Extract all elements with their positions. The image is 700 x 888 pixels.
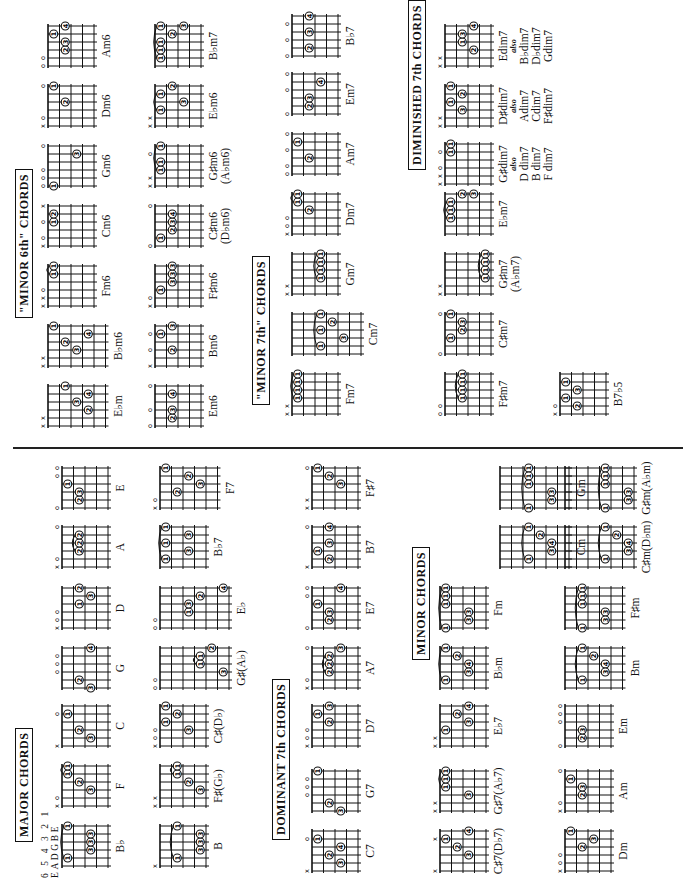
chord-name-label: Bm [629, 634, 641, 702]
open-string-icon: o [39, 64, 47, 68]
fretboard-grid: xoo213 [302, 702, 364, 750]
open-string-icon: o [146, 408, 154, 412]
svg-text:1: 1 [525, 505, 533, 510]
svg-text:1: 1 [317, 327, 325, 332]
svg-text:1: 1 [317, 251, 325, 256]
equivalent-chord: F♯dim7 [542, 72, 554, 140]
fretboard-grid: xxo321 [302, 464, 364, 512]
fretboard-grid: xoo2223 [302, 644, 364, 692]
svg-text:3: 3 [87, 840, 95, 845]
fretboard-grid: ooo321 [302, 767, 364, 815]
chord-name-label: Dm7 [344, 180, 356, 248]
svg-text:1: 1 [162, 465, 170, 470]
open-string-icon: o [303, 646, 311, 650]
svg-text:3: 3 [185, 533, 193, 538]
svg-text:1: 1 [447, 335, 455, 340]
chord-diagram: 11133B♭7 [150, 523, 212, 571]
svg-text:1: 1 [562, 379, 570, 384]
fretboard-grid: xx1324 [430, 702, 492, 750]
muted-string-icon: x [436, 284, 444, 288]
open-string-icon: o [303, 777, 311, 781]
svg-text:3: 3 [625, 490, 633, 495]
svg-text:3: 3 [459, 32, 467, 37]
fretboard-grid: xx3412 [38, 382, 112, 430]
svg-text:3: 3 [465, 618, 473, 623]
open-string-icon: o [283, 216, 291, 220]
fretboard-grid: oooo21 [282, 130, 344, 178]
svg-text:1: 1 [442, 784, 450, 789]
fretboard-grid: ooo234 [145, 382, 207, 430]
chord-diagram: ooo321G7 [302, 767, 364, 815]
also-label: also [509, 130, 518, 198]
chord-diagram: oooo21Am7 [282, 130, 344, 178]
open-string-icon: o [53, 466, 61, 470]
fretboard-grid: xoo222 [52, 523, 114, 571]
chord-diagram: oo1324E♭ [150, 584, 235, 632]
svg-text:4: 4 [465, 661, 473, 666]
fretboard-grid: xo1234 [302, 523, 364, 571]
svg-text:1: 1 [294, 139, 302, 144]
fretboard-grid: oo1123 [150, 644, 235, 692]
fretboard-grid: oo1111 [435, 370, 497, 418]
svg-text:4: 4 [317, 79, 325, 84]
fretboard-grid: oo2314 [38, 22, 100, 70]
svg-text:3: 3 [574, 388, 582, 393]
fretboard-grid: oo1234 [145, 202, 207, 250]
svg-text:1: 1 [442, 625, 450, 630]
svg-text:1: 1 [157, 159, 165, 164]
svg-text:1: 1 [157, 143, 165, 148]
open-string-icon: o [146, 244, 154, 248]
fretboard-grid: xo2131 [550, 370, 612, 418]
open-string-icon: o [303, 837, 311, 841]
chord-name-label: D♯dim7alsoAdim7Cdim7F♯dim7 [497, 72, 554, 140]
svg-text:2: 2 [326, 654, 334, 659]
open-string-icon: o [283, 172, 291, 176]
section-header-dim7: DIMINISHED 7th CHORDS [408, 0, 426, 170]
svg-text:1: 1 [314, 836, 322, 841]
chord-name-label: Am6 [100, 12, 112, 80]
svg-text:2: 2 [329, 320, 337, 325]
svg-text:3: 3 [579, 728, 587, 733]
svg-text:3: 3 [197, 832, 205, 837]
svg-text:1: 1 [174, 771, 182, 776]
svg-text:1: 1 [459, 395, 467, 400]
chord-diagram: xo3241C7 [302, 827, 364, 875]
chord-diagram: ooo324G [52, 644, 114, 692]
svg-text:1: 1 [602, 556, 610, 561]
open-string-icon: o [53, 525, 61, 529]
muted-string-icon: x [303, 498, 311, 502]
svg-text:1: 1 [442, 836, 450, 841]
muted-string-icon: x [431, 744, 439, 748]
svg-text:2: 2 [169, 84, 177, 89]
svg-text:1: 1 [294, 199, 302, 204]
chord-diagram: ooo234B♭7 [282, 12, 344, 60]
open-string-icon: o [151, 728, 159, 732]
svg-text:2: 2 [306, 208, 314, 213]
svg-text:1: 1 [525, 465, 533, 470]
svg-text:3: 3 [169, 324, 177, 329]
open-string-icon: o [53, 662, 61, 666]
svg-text:3: 3 [87, 736, 95, 741]
svg-text:3: 3 [197, 788, 205, 793]
open-string-icon: o [556, 801, 564, 805]
svg-text:4: 4 [465, 828, 473, 833]
svg-text:1: 1 [482, 275, 490, 280]
chord-name-label: Em7 [344, 60, 356, 128]
muted-string-icon: x [39, 304, 47, 308]
svg-text:1: 1 [294, 379, 302, 384]
chord-diagram: xoo213D7 [302, 702, 364, 750]
chord-name-label: G [114, 634, 126, 702]
svg-text:2: 2 [169, 32, 177, 37]
svg-text:3: 3 [625, 498, 633, 503]
fretboard-grid: 111123 [145, 22, 207, 70]
svg-text:2: 2 [326, 474, 334, 479]
svg-text:1: 1 [602, 505, 610, 510]
chord-name-label: F [114, 752, 126, 820]
muted-string-icon: x [39, 244, 47, 248]
open-string-icon: o [53, 670, 61, 674]
svg-text:3: 3 [337, 482, 345, 487]
muted-string-icon: x [146, 116, 154, 120]
chord-diagram: xx1342Edim7alsoB♭dim7D♭dim7Gdim7 [435, 22, 497, 70]
svg-text:3: 3 [169, 264, 177, 269]
svg-text:2: 2 [197, 594, 205, 599]
